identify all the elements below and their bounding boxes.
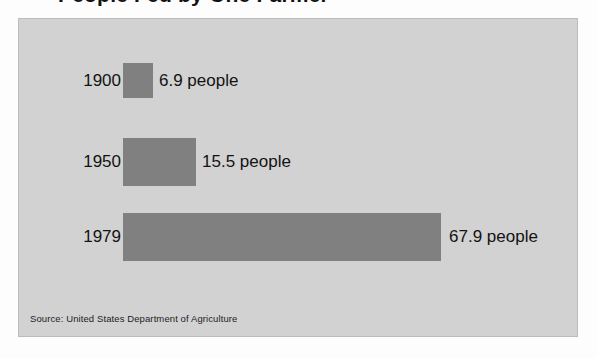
- category-label-1979: 1979: [47, 228, 121, 245]
- bar-row: 1979 67.9 people: [19, 213, 577, 261]
- value-label-1950: 15.5 people: [202, 153, 291, 170]
- value-label-1900: 6.9 people: [159, 72, 238, 89]
- bar-row: 1950 15.5 people: [19, 138, 577, 186]
- bar-row: 1900 6.9 people: [19, 63, 577, 98]
- bar-1900: [123, 63, 153, 98]
- chart-title: People Fed by One Farmer: [58, 0, 329, 7]
- value-label-1979: 67.9 people: [449, 228, 538, 245]
- bar-1979: [123, 213, 441, 261]
- chart-panel: 1900 6.9 people 1950 15.5 people 1979 67…: [18, 18, 578, 337]
- category-label-1950: 1950: [47, 153, 121, 170]
- bar-1950: [123, 138, 196, 186]
- cropped-title-strip: People Fed by One Farmer: [0, 0, 597, 14]
- plot-area: 1900 6.9 people 1950 15.5 people 1979 67…: [19, 19, 577, 291]
- category-label-1900: 1900: [47, 72, 121, 89]
- source-note: Source: United States Department of Agri…: [30, 313, 237, 324]
